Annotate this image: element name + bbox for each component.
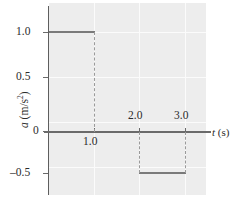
dashed-connector-t-2.0 <box>139 132 140 173</box>
y-axis-line <box>48 6 49 195</box>
x-tick-label-1.0: 1.0 <box>83 136 97 148</box>
horizontal-gridline <box>49 122 206 123</box>
y-axis-label: a (m/s2) <box>16 91 30 128</box>
y-axis-unit-exponent: 2 <box>16 95 25 99</box>
x-axis-unit: (s) <box>218 126 230 138</box>
y-tick--0.5 <box>43 173 48 174</box>
y-tick-label-0: 0 <box>33 125 39 137</box>
y-tick-label-1.0: 1.0 <box>16 26 30 38</box>
horizontal-gridline <box>49 77 206 78</box>
y-axis-unit-close: ) <box>18 91 30 95</box>
x-axis-label: t (s) <box>212 126 229 138</box>
y-tick-label-0.5: 0.5 <box>16 71 30 83</box>
x-tick-label-2.0: 2.0 <box>128 110 142 122</box>
data-segment-a-1.0 <box>49 31 95 33</box>
y-tick-0.5 <box>43 77 48 78</box>
y-tick-1.0 <box>43 32 48 33</box>
dashed-connector-t-3.0 <box>185 132 186 173</box>
x-tick-label-3.0: 3.0 <box>174 110 188 122</box>
horizontal-gridline <box>49 167 206 168</box>
data-segment-a--0.5 <box>139 172 186 174</box>
y-tick-label--0.5: –0.5 <box>10 167 30 179</box>
acceleration-time-chart: 1.0 0.5 0 –0.5 1.0 2.0 3.0 t (s) a (m/s2… <box>0 0 234 207</box>
y-tick-0 <box>43 131 48 132</box>
y-axis-symbol: a <box>18 122 30 128</box>
y-axis-unit-open: (m/s <box>18 99 30 119</box>
x-axis-symbol: t <box>212 126 215 138</box>
dashed-connector-t-1.0 <box>94 32 95 132</box>
